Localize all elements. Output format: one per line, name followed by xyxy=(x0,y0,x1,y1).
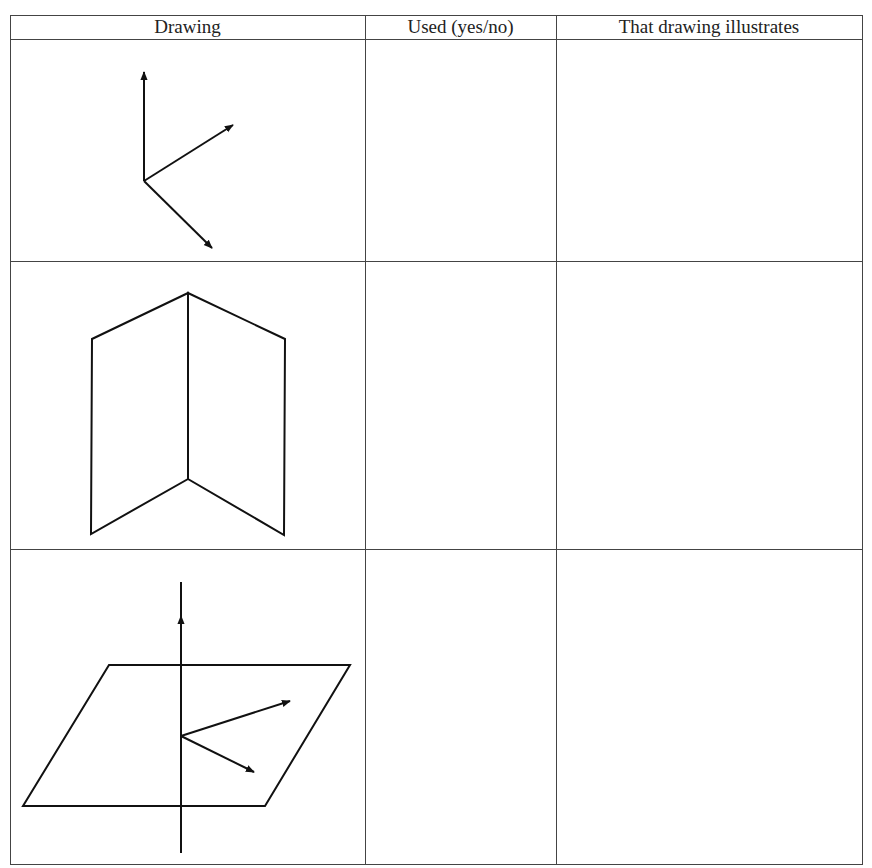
table-bottom-border xyxy=(10,864,863,865)
row-1-illustrates-cell[interactable] xyxy=(557,40,861,261)
worksheet-table: Drawing Used (yes/no) That drawing illus… xyxy=(0,0,872,868)
row-3-used-cell[interactable] xyxy=(366,550,555,864)
row-3-illustrates-cell[interactable] xyxy=(557,550,861,864)
row-1-used-cell[interactable] xyxy=(366,40,555,261)
row-2-used-cell[interactable] xyxy=(366,262,555,549)
header-illustrates: That drawing illustrates xyxy=(556,15,862,39)
table-right-border xyxy=(862,15,863,865)
row-2-illustrates-cell[interactable] xyxy=(557,262,861,549)
table-left-border xyxy=(10,15,11,865)
header-drawing: Drawing xyxy=(10,15,365,39)
header-used: Used (yes/no) xyxy=(365,15,556,39)
